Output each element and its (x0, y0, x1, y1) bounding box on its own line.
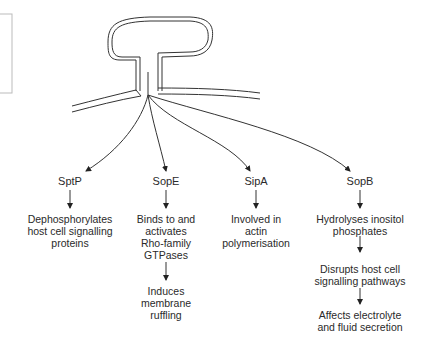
text-line: activates (137, 225, 195, 237)
diagram-canvas (0, 0, 424, 348)
membrane-right-inner (158, 94, 260, 99)
text-line: Involved in (222, 213, 290, 225)
sptp-effect-1: Dephosphorylates host cell signalling pr… (27, 213, 112, 249)
sipa-effect-1: Involved in actin polymerisation (222, 213, 290, 249)
text-line: signalling pathways (314, 275, 405, 287)
sope-effect-2: Induces membrane ruffling (141, 285, 191, 321)
text-line: membrane (141, 297, 191, 309)
text-line: proteins (27, 237, 112, 249)
text-line: Disrupts host cell (314, 263, 405, 275)
needle-complex-outer (108, 17, 213, 91)
text-line: Binds to and (137, 213, 195, 225)
text-line: and fluid secretion (317, 321, 402, 333)
text-line: host cell signalling (27, 225, 112, 237)
membrane-right-outer (158, 88, 260, 93)
effector-sope: SopE (153, 175, 180, 187)
effector-sptp: SptP (58, 175, 82, 187)
text-line: GTPases (137, 249, 195, 261)
sopb-effect-3: Affects electrolyte and fluid secretion (317, 309, 402, 333)
membrane-left-inner (72, 96, 141, 112)
text-line: Affects electrolyte (317, 309, 402, 321)
partial-box (0, 14, 12, 93)
text-line: Dephosphorylates (27, 213, 112, 225)
text-line: polymerisation (222, 237, 290, 249)
arrow-to-sopb (148, 95, 350, 171)
text-line: phosphates (316, 225, 404, 237)
sope-effect-1: Binds to and activates Rho-family GTPase… (137, 213, 195, 261)
text-line: Hydrolyses inositol (316, 213, 404, 225)
text-line: Rho-family (137, 237, 195, 249)
sopb-effect-1: Hydrolyses inositol phosphates (316, 213, 404, 237)
sopb-effect-2: Disrupts host cell signalling pathways (314, 263, 405, 287)
text-line: actin (222, 225, 290, 237)
arrow-to-sope (148, 95, 166, 171)
effector-sopb: SopB (347, 175, 374, 187)
effector-sipa: SipA (244, 175, 267, 187)
text-line: ruffling (141, 309, 191, 321)
text-line: Induces (141, 285, 191, 297)
